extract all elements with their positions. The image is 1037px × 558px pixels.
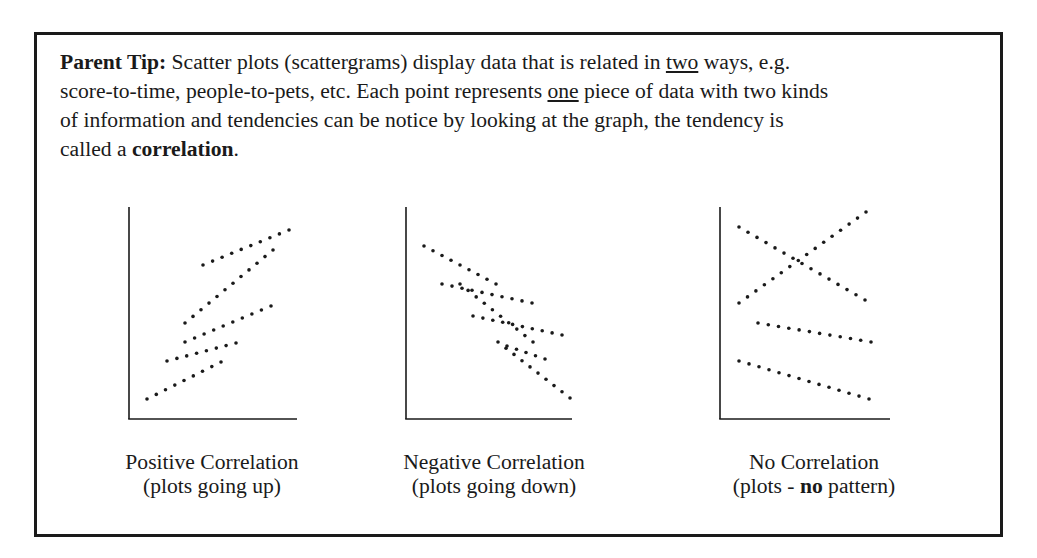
negative-correlation-plot <box>405 207 572 419</box>
data-point <box>531 340 535 344</box>
data-point <box>491 318 495 322</box>
data-point <box>287 228 291 232</box>
caption-subtitle: (plots going down) <box>364 474 624 498</box>
data-point <box>183 340 187 344</box>
dot-series-line-d <box>165 341 238 363</box>
data-point <box>773 246 777 250</box>
dot-series-line-2 <box>440 282 534 305</box>
data-point <box>191 315 195 319</box>
data-point <box>507 321 511 325</box>
data-point <box>857 394 861 398</box>
data-point <box>512 353 516 357</box>
data-point <box>230 252 234 256</box>
data-point <box>145 397 149 401</box>
data-point <box>207 301 211 305</box>
data-point <box>458 282 462 286</box>
caption-title: No Correlation <box>684 450 944 474</box>
caption-subtitle: (plots - no pattern) <box>684 474 944 498</box>
data-point <box>777 325 781 329</box>
data-point <box>813 247 817 251</box>
data-point <box>788 265 792 269</box>
data-point <box>523 334 527 338</box>
data-point <box>422 244 426 248</box>
data-point <box>746 295 750 299</box>
data-point <box>450 284 454 288</box>
data-point <box>263 255 267 259</box>
data-point <box>755 236 759 240</box>
data-point <box>183 321 187 325</box>
data-point <box>202 332 206 336</box>
data-point <box>193 336 197 340</box>
data-point <box>483 302 487 306</box>
data-point <box>199 308 203 312</box>
data-point <box>269 304 273 308</box>
data-point <box>224 344 228 348</box>
data-point <box>540 329 544 333</box>
data-point <box>830 235 834 239</box>
data-point <box>869 340 873 344</box>
caption-title: Positive Correlation <box>82 450 342 474</box>
data-point <box>817 383 821 387</box>
data-point <box>268 236 272 240</box>
data-point <box>231 281 235 285</box>
data-point <box>449 259 453 263</box>
data-point <box>205 349 209 353</box>
data-point <box>220 255 224 259</box>
data-point <box>552 384 556 388</box>
data-point <box>767 368 771 372</box>
data-point <box>531 327 535 331</box>
data-point <box>182 379 186 383</box>
data-point <box>466 289 470 293</box>
data-point <box>215 295 219 299</box>
data-point <box>780 271 784 275</box>
data-point <box>544 378 548 382</box>
caption-negative: Negative Correlation (plots going down) <box>364 450 624 498</box>
data-point <box>211 259 215 263</box>
dot-series-line-1 <box>422 244 498 286</box>
data-point <box>808 330 812 334</box>
data-point <box>458 263 462 267</box>
data-point <box>828 333 832 337</box>
dot-series-line-mid <box>756 321 873 344</box>
dot-series-line-4 <box>471 314 564 337</box>
data-point <box>474 295 478 299</box>
positive-correlation-plot <box>128 207 297 419</box>
data-point <box>867 397 871 401</box>
data-point <box>847 222 851 226</box>
data-point <box>260 308 264 312</box>
data-point <box>165 359 169 363</box>
data-point <box>173 383 177 387</box>
dot-series-line-5 <box>496 340 572 400</box>
caption-text: (plots - <box>733 474 800 498</box>
data-point <box>521 325 525 329</box>
data-point <box>212 328 216 332</box>
data-point <box>763 283 767 287</box>
data-point <box>737 301 741 305</box>
data-point <box>805 253 809 257</box>
data-point <box>845 288 849 292</box>
data-point <box>822 241 826 245</box>
data-point <box>767 323 771 327</box>
data-point <box>787 374 791 378</box>
data-point <box>500 295 504 299</box>
data-point <box>746 230 750 234</box>
data-point <box>481 316 485 320</box>
data-point <box>800 262 804 266</box>
data-point <box>215 346 219 350</box>
data-point <box>515 327 519 331</box>
data-point <box>737 225 741 229</box>
data-point <box>764 241 768 245</box>
data-point <box>863 298 867 302</box>
data-point <box>524 351 528 355</box>
data-point <box>777 371 781 375</box>
data-point <box>809 267 813 271</box>
dot-series-line-b <box>183 248 275 325</box>
data-point <box>250 312 254 316</box>
data-point <box>239 275 243 279</box>
data-point <box>737 359 741 363</box>
data-point <box>185 354 189 358</box>
data-point <box>231 320 235 324</box>
data-point <box>854 293 858 297</box>
emphasis-no: no <box>800 474 823 498</box>
data-point <box>505 344 509 348</box>
